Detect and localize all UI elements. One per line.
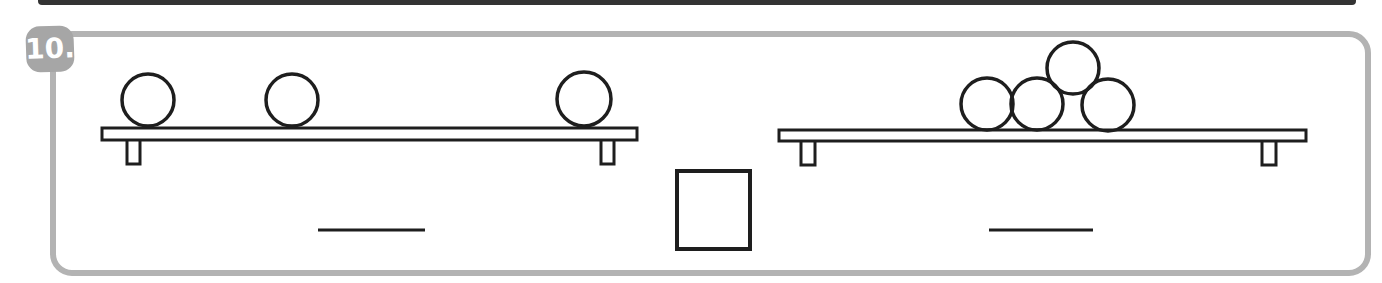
right-ball-3: [1082, 79, 1134, 131]
comparison-group: [677, 171, 750, 249]
left-shelf-plank: [102, 128, 637, 140]
right-ball-2: [1011, 78, 1063, 130]
worksheet-figure: [0, 0, 1382, 283]
right-shelf-group: [779, 42, 1306, 230]
right-shelf-plank: [779, 130, 1306, 141]
right-ball-1: [961, 78, 1013, 130]
worksheet-page: 10.: [0, 0, 1382, 283]
left-ball-0: [122, 74, 174, 126]
right-shelf-leg-0: [801, 140, 815, 165]
exercise-number-label: 10.: [25, 34, 76, 64]
right-shelf-leg-1: [1262, 140, 1276, 165]
left-ball-1: [266, 74, 318, 126]
exercise-number-badge: 10.: [25, 25, 75, 73]
left-shelf-leg-1: [601, 139, 614, 164]
left-shelf-leg-0: [127, 139, 140, 164]
left-shelf-group: [102, 72, 637, 230]
comparison-box[interactable]: [677, 171, 750, 249]
left-ball-2: [557, 72, 611, 126]
